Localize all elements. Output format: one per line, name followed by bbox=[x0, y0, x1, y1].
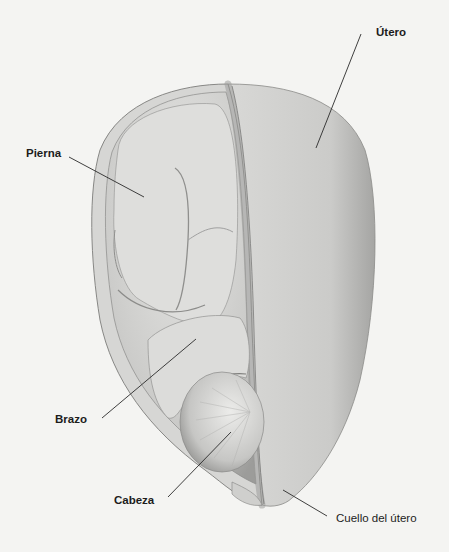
uterus-fetus-illustration bbox=[0, 0, 449, 552]
label-cuello-del-utero: Cuello del útero bbox=[336, 513, 417, 525]
label-pierna: Pierna bbox=[26, 148, 61, 160]
leader-cuello bbox=[283, 490, 327, 516]
fetus-head bbox=[180, 372, 264, 472]
label-cabeza: Cabeza bbox=[114, 495, 154, 507]
label-brazo: Brazo bbox=[55, 414, 87, 426]
label-utero: Útero bbox=[376, 27, 406, 39]
fetus-leg bbox=[114, 103, 238, 325]
